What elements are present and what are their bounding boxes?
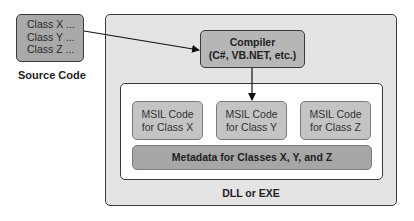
- connector-arrows: [0, 0, 414, 221]
- source-to-compiler-arrow: [84, 31, 199, 50]
